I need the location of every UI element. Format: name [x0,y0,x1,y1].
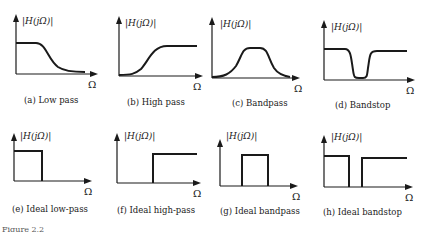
panel-caption: (a) Low pass [24,95,78,105]
y-axis-label: |H(jΩ)| [22,16,53,26]
panel-ideal-lowpass: |H(jΩ)| Ω (e) Ideal low-pass [0,116,105,232]
y-axis-label: |H(jΩ)| [20,131,51,141]
panel-caption: (d) Bandstop [335,100,390,110]
ideal-lowpass-plot [0,116,105,232]
y-axis-label: |H(jΩ)| [331,22,362,32]
panel-caption: (g) Ideal bandpass [220,206,300,216]
panel-caption: (f) Ideal high-pass [117,205,195,215]
y-axis-label: |H(jΩ)| [331,132,362,142]
panel-bandstop: |H(jΩ)| Ω (d) Bandstop [315,0,421,116]
panel-lowpass: |H(jΩ)| Ω (a) Low pass [0,0,105,116]
x-axis-label: Ω [84,186,92,197]
x-axis-label: Ω [193,81,201,92]
panel-ideal-bandpass: |H(jΩ)| Ω (g) Ideal bandpass [210,116,315,232]
x-axis-label: Ω [406,85,414,96]
panel-highpass: |H(jΩ)| Ω (b) High pass [105,0,210,116]
x-axis-label: Ω [405,192,413,203]
panel-caption: (e) Ideal low-pass [12,204,88,214]
panel-ideal-bandstop: |H(jΩ)| Ω (h) Ideal bandstop [315,116,421,232]
panel-ideal-highpass: |H(jΩ)| Ω (f) Ideal high-pass [105,116,210,232]
figure-caption-partial: Figure 2.2 [2,225,44,232]
panel-caption: (c) Bandpass [232,98,288,108]
bandstop-plot [315,0,421,116]
x-axis-label: Ω [193,188,201,199]
x-axis-label: Ω [292,191,300,202]
y-axis-label: |H(jΩ)| [125,18,156,28]
y-axis-label: |H(jΩ)| [124,131,155,141]
y-axis-label: |H(jΩ)| [220,19,251,29]
panel-caption: (b) High pass [127,97,185,107]
panel-caption: (h) Ideal bandstop [323,207,402,217]
x-axis-label: Ω [88,79,96,90]
panel-bandpass: |H(jΩ)| Ω (c) Bandpass [210,0,315,116]
x-axis-label: Ω [294,83,302,94]
y-axis-label: |H(jΩ)| [226,131,257,141]
